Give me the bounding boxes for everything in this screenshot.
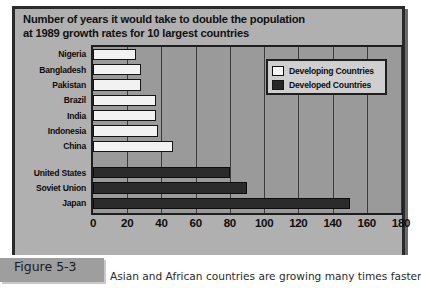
chart-title-line-2: at 1989 growth rates for 10 largest coun… (23, 27, 323, 41)
legend-item: Developing Countries (272, 64, 381, 78)
x-axis-tick-0: 0 (90, 217, 96, 229)
x-axis-tick-140: 140 (323, 217, 341, 229)
y-axis-label-soviet-union: Soviet Union (36, 183, 86, 193)
y-axis-label-japan: Japan (62, 198, 86, 208)
bar-japan (93, 198, 350, 209)
bar-india (93, 110, 156, 121)
x-axis-tick-40: 40 (155, 217, 167, 229)
x-axis-labels: 020406080100120140160180 (91, 217, 403, 237)
bar-china (93, 141, 173, 152)
x-axis-tick-120: 120 (289, 217, 307, 229)
chart-title-line-1: Number of years it would take to double … (23, 13, 323, 27)
y-axis-label-china: China (63, 141, 86, 151)
bar-united-states (93, 167, 230, 178)
legend-item: Developed Countries (272, 78, 381, 92)
legend-label: Developing Countries (289, 66, 374, 76)
y-axis-label-nigeria: Nigeria (58, 49, 86, 59)
figure-frame: Number of years it would take to double … (12, 6, 405, 261)
legend-swatch-developed-icon (272, 80, 284, 90)
chart-title: Number of years it would take to double … (23, 13, 323, 40)
y-axis-label-india: India (67, 111, 86, 121)
bar-bangladesh (93, 64, 141, 75)
x-axis-tick-100: 100 (255, 217, 273, 229)
bar-pakistan (93, 79, 141, 90)
y-axis-labels: NigeriaBangladeshPakistanBrazilIndiaIndo… (15, 45, 89, 215)
figure-number-label: Figure 5-3 (14, 259, 77, 274)
legend-swatch-developing-icon (272, 66, 284, 76)
x-axis-tick-80: 80 (224, 217, 236, 229)
bar-nigeria (93, 49, 136, 60)
y-axis-label-brazil: Brazil (64, 95, 86, 105)
gridline (401, 47, 402, 213)
figure-caption: Asian and African countries are growing … (110, 270, 421, 282)
x-axis-tick-20: 20 (121, 217, 133, 229)
bar-soviet-union (93, 182, 247, 193)
y-axis-label-bangladesh: Bangladesh (39, 65, 86, 75)
x-axis-tick-60: 60 (190, 217, 202, 229)
bar-brazil (93, 95, 156, 106)
bar-indonesia (93, 125, 158, 136)
chart-legend: Developing Countries Developed Countries (266, 59, 387, 95)
x-axis-tick-160: 160 (358, 217, 376, 229)
caption-band: Figure 5-3 Asian and African countries a… (0, 255, 419, 288)
y-axis-label-united-states: United States (34, 168, 86, 178)
legend-label: Developed Countries (289, 80, 371, 90)
chart-panel: Number of years it would take to double … (15, 9, 402, 258)
y-axis-label-indonesia: Indonesia (48, 126, 86, 136)
x-axis-tick-180: 180 (392, 217, 410, 229)
y-axis-label-pakistan: Pakistan (52, 80, 86, 90)
